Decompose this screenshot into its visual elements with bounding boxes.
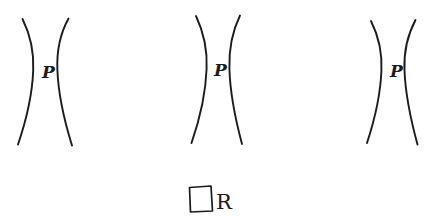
left-curve-3 xyxy=(367,21,382,143)
right-curve-2 xyxy=(229,16,242,145)
right-curve-3 xyxy=(404,20,417,145)
right-curve-1 xyxy=(57,19,72,146)
sketch-canvas: P P P R xyxy=(0,0,432,223)
rectangle-icon xyxy=(190,186,213,212)
curve-group-2: P xyxy=(192,16,243,145)
left-curve-2 xyxy=(192,16,207,143)
legend: R xyxy=(190,186,234,214)
left-curve-1 xyxy=(18,19,33,145)
region-label-p-2: P xyxy=(213,60,228,80)
curve-group-3: P xyxy=(367,20,418,145)
region-label-p-3: P xyxy=(389,61,404,81)
legend-label-r: R xyxy=(216,190,233,214)
diagram-svg: P P P R xyxy=(0,0,432,223)
region-label-p-1: P xyxy=(41,62,56,82)
curve-group-1: P xyxy=(18,19,72,146)
